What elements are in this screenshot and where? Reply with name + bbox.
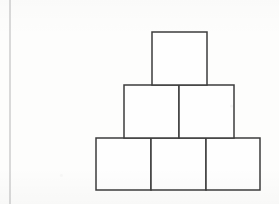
block-bottom-1[interactable]	[96, 138, 151, 190]
top-row-group	[152, 32, 207, 85]
block-middle-1[interactable]	[124, 85, 179, 138]
middle-row-group	[124, 85, 234, 138]
block-top-1[interactable]	[152, 32, 207, 85]
block-bottom-2[interactable]	[151, 138, 206, 190]
block-bottom-3[interactable]	[206, 138, 260, 190]
block-middle-2[interactable]	[179, 85, 234, 138]
block-pyramid-figure	[0, 0, 279, 204]
bottom-row-group	[96, 138, 260, 190]
drawing-canvas	[0, 0, 279, 204]
